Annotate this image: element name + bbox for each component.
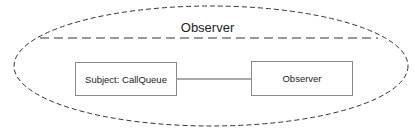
subject-node-label: Subject: CallQueue xyxy=(85,74,167,85)
observer-node-label: Observer xyxy=(282,73,321,84)
subject-callqueue-node: Subject: CallQueue xyxy=(75,62,177,96)
observer-node: Observer xyxy=(251,61,353,96)
collaboration-title: Observer xyxy=(0,20,415,35)
